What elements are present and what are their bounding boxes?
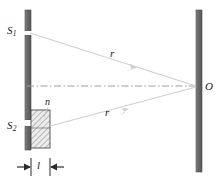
dimension-arrow-left-head — [24, 164, 31, 171]
glass-plate — [31, 110, 50, 148]
label-ray-upper: r — [110, 48, 114, 59]
ray-upper-s1-to-o — [30, 33, 196, 86]
label-point-o: O — [205, 81, 213, 92]
slit-s2-aperture — [25, 120, 31, 126]
label-slit-s1: S1 — [7, 25, 17, 38]
dimension-arrow-right-head — [50, 164, 57, 171]
ray-upper-group — [30, 33, 196, 86]
label-slit-s2-subscript: 2 — [13, 124, 17, 133]
ray-lower-s2-to-o — [50, 87, 196, 126]
label-plate-thickness: l — [37, 160, 40, 171]
barrier-segment-top — [25, 10, 31, 31]
optics-diagram: S1 S2 n r r O l — [0, 0, 216, 182]
label-slit-s2: S2 — [7, 120, 17, 133]
label-slit-s1-subscript: 1 — [13, 29, 17, 38]
label-slit-s2-text: S — [7, 119, 13, 131]
diagram-canvas — [0, 0, 216, 182]
barrier-segment-middle — [25, 35, 31, 120]
glass-plate-group — [31, 107, 50, 148]
observation-screen — [196, 10, 202, 172]
ray-lower-group — [50, 87, 196, 126]
label-slit-s1-text: S — [7, 24, 13, 36]
ray-lower-arrowhead — [121, 108, 130, 115]
dimension-thickness-group — [17, 158, 64, 176]
label-ray-lower: r — [105, 107, 109, 118]
label-refractive-index: n — [45, 97, 50, 107]
point-o-marker — [196, 85, 198, 87]
barrier-segment-bottom — [25, 126, 31, 150]
